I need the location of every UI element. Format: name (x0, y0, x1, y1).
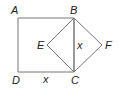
label-side-dc: x (42, 73, 49, 85)
label-c: C (71, 74, 79, 86)
label-d: D (12, 74, 20, 86)
label-e: E (37, 39, 45, 51)
geometry-diagram: A B C D E F x x (0, 0, 119, 93)
label-a: A (10, 4, 18, 16)
label-b: B (70, 4, 77, 16)
label-side-bc: x (76, 39, 83, 51)
label-f: F (105, 39, 113, 51)
